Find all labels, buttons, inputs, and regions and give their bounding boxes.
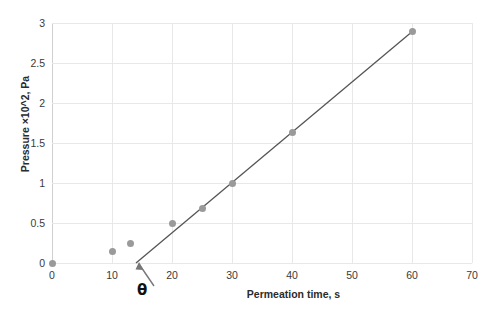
data-point — [49, 260, 56, 267]
y-tick-label: 0.5 — [30, 218, 45, 229]
y-tick-label: 0 — [39, 258, 45, 269]
data-point — [169, 220, 176, 227]
x-tick-label: 30 — [217, 270, 247, 281]
trendline-segment — [136, 32, 412, 263]
x-tick-label: 70 — [457, 270, 487, 281]
plot-area — [52, 23, 472, 263]
y-tick-label: 1 — [39, 178, 45, 189]
y-tick-label: 2 — [39, 98, 45, 109]
permeation-time-lag-chart: 00.511.522.53 010203040506070 Pressure ×… — [0, 0, 487, 312]
x-tick-label: 50 — [337, 270, 367, 281]
x-axis-title-text: Permeation time, s — [247, 288, 340, 300]
data-point — [127, 240, 134, 247]
data-point — [109, 248, 116, 255]
y-tick-label: 2.5 — [30, 58, 45, 69]
data-point — [199, 205, 206, 212]
arrow-up-left-icon — [128, 258, 168, 290]
data-point — [289, 129, 296, 136]
x-tick-label: 40 — [277, 270, 307, 281]
y-tick-label: 1.5 — [30, 138, 45, 149]
x-tick-label: 10 — [97, 270, 127, 281]
y-tick-label: 3 — [39, 18, 45, 29]
data-point — [409, 28, 416, 35]
y-axis-title: Pressure ×10^2, Pa — [19, 39, 31, 209]
x-axis-title: Permeation time, s — [0, 288, 487, 300]
data-point — [229, 180, 236, 187]
gridline-vertical — [472, 23, 473, 263]
trendline — [52, 23, 472, 263]
gridline-horizontal — [52, 263, 472, 264]
x-tick-label: 60 — [397, 270, 427, 281]
theta-annotation-label: θ — [137, 283, 147, 298]
x-tick-label: 0 — [37, 270, 67, 281]
